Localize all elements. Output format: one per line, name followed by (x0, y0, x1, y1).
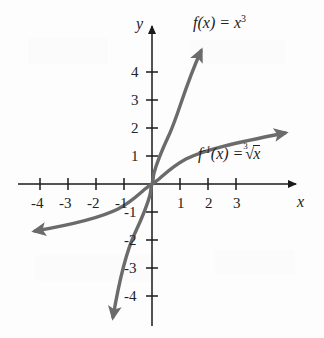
cubic-function-label: f(x) = x3 (193, 14, 246, 31)
inverse-label-arg: (x) = (211, 145, 244, 162)
y-tick-label-2: 2 (131, 121, 139, 136)
y-axis-label: y (136, 16, 143, 32)
x-tick-label-3: 3 (233, 196, 241, 211)
inverse-function-label: f-1(x) = 3√x (198, 145, 260, 162)
x-tick-label-1: 1 (177, 196, 185, 211)
x-tick-label--2: -2 (87, 196, 100, 211)
y-tick-label-3: 3 (131, 93, 139, 108)
x-tick-label--4: -4 (31, 196, 44, 211)
y-tick-label--4: -4 (124, 289, 137, 304)
y-tick-label-1: 1 (131, 149, 139, 164)
cube-root-radical-icon: 3√x (243, 145, 260, 162)
inverse-label-exponent: -1 (202, 144, 210, 155)
y-tick-label--3: -3 (124, 261, 137, 276)
radical-index: 3 (243, 142, 248, 151)
cubic-label-exponent: 3 (241, 13, 246, 24)
y-tick-label-4: 4 (131, 65, 139, 80)
radicand: x (253, 145, 260, 162)
x-tick-label--3: -3 (59, 196, 72, 211)
x-axis-label: x (297, 194, 304, 210)
cubic-label-text: f(x) = x (193, 14, 241, 31)
y-tick-label--2: -2 (124, 233, 137, 248)
function-graph (0, 0, 324, 338)
y-tick-label--1: -1 (124, 205, 137, 220)
x-tick-label-2: 2 (205, 196, 213, 211)
